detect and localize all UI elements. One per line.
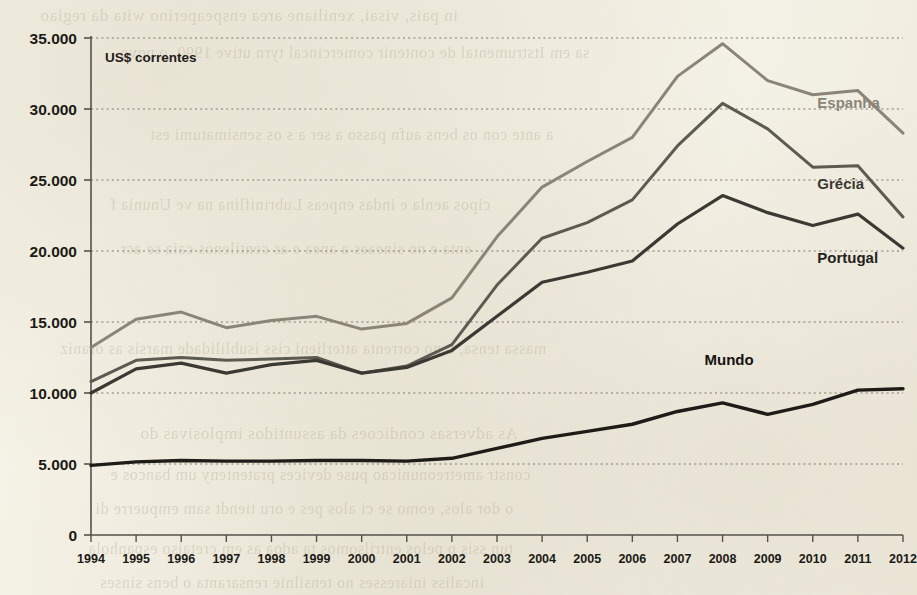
- x-tick-label: 2005: [573, 552, 601, 566]
- series-line-mundo: [91, 389, 903, 466]
- x-tick-label: 2008: [709, 552, 737, 566]
- x-tick-label: 1999: [303, 552, 331, 566]
- series-label-mundo: Mundo: [705, 351, 754, 368]
- y-tick-label: 20.000: [30, 243, 77, 260]
- series-label-grcia: Grécia: [817, 175, 864, 192]
- x-tick-label: 2012: [889, 552, 917, 566]
- x-tick-label: 2002: [438, 552, 466, 566]
- x-tick-label: 2001: [393, 552, 421, 566]
- y-tick-label: 15.000: [30, 314, 77, 331]
- y-tick-label: 25.000: [30, 172, 77, 189]
- x-tick-label: 2010: [799, 552, 827, 566]
- unit-note: US$ correntes: [105, 50, 197, 65]
- series-line-espanha: [91, 44, 903, 348]
- x-tick-label: 2003: [483, 552, 511, 566]
- x-tick-label: 2004: [528, 552, 556, 566]
- y-tick-label: 35.000: [30, 30, 77, 47]
- x-tick-label: 1997: [212, 552, 240, 566]
- x-tick-label: 1998: [258, 552, 286, 566]
- y-tick-label: 10.000: [30, 385, 77, 402]
- x-tick-label: 2007: [664, 552, 692, 566]
- series-line-grcia: [91, 103, 903, 381]
- series-label-portugal: Portugal: [817, 249, 878, 266]
- y-tick-label: 30.000: [30, 101, 77, 118]
- x-tick-label: 2006: [618, 552, 646, 566]
- x-tick-label: 1996: [167, 552, 195, 566]
- line-chart: 05.00010.00015.00020.00025.00030.00035.0…: [0, 0, 917, 595]
- chart-canvas: 05.00010.00015.00020.00025.00030.00035.0…: [0, 0, 917, 595]
- x-tick-label: 2009: [754, 552, 782, 566]
- x-tick-label: 2011: [844, 552, 871, 566]
- x-tick-label: 1994: [77, 552, 105, 566]
- x-tick-label: 1995: [122, 552, 150, 566]
- y-tick-label: 0: [68, 527, 77, 544]
- series-line-portugal: [91, 196, 903, 393]
- y-tick-label: 5.000: [38, 456, 77, 473]
- x-tick-label: 2000: [348, 552, 376, 566]
- series-label-espanha: Espanha: [817, 94, 880, 111]
